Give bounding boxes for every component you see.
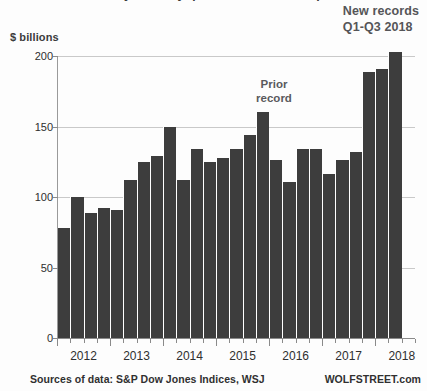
x-axis-labels: 2012201320142015201620172018: [57, 349, 415, 365]
y-tick-label-0: 0: [13, 333, 53, 343]
x-tick-minor: [176, 339, 177, 343]
x-tick-minor: [309, 339, 310, 343]
bar: [349, 152, 362, 338]
x-axis-label-2018: 2018: [379, 349, 425, 363]
bar: [269, 160, 282, 338]
x-tick-major: [375, 339, 376, 346]
x-tick-minor: [84, 339, 85, 343]
bar: [388, 52, 401, 338]
bar: [57, 228, 70, 338]
y-tick-mark-200: [53, 56, 58, 57]
bar: [123, 180, 136, 338]
bar: [203, 162, 216, 338]
x-axis-label-2016: 2016: [273, 349, 319, 363]
x-axis-label-2013: 2013: [114, 349, 160, 363]
x-tick-minor: [137, 339, 138, 343]
bar: [70, 197, 83, 338]
bar: [137, 162, 150, 338]
y-tick-label-150: 150: [13, 122, 53, 132]
x-tick-minor: [97, 339, 98, 343]
y-axis-unit-label: $ billions: [10, 31, 59, 43]
bar: [229, 149, 242, 338]
bar: [190, 149, 203, 338]
x-tick-major: [110, 339, 111, 346]
x-tick-minor: [243, 339, 244, 343]
bar-series: [57, 56, 415, 338]
x-tick-minor: [415, 339, 416, 343]
y-tick-label-50: 50: [13, 263, 53, 273]
bar: [216, 158, 229, 338]
bar: [322, 174, 335, 338]
x-tick-major: [322, 339, 323, 346]
y-tick-mark-150: [53, 127, 58, 128]
y-tick-label-200: 200: [13, 51, 53, 61]
x-tick-minor: [296, 339, 297, 343]
bar: [84, 213, 97, 338]
bar: [163, 127, 176, 339]
x-tick-minor: [229, 339, 230, 343]
x-tick-minor: [349, 339, 350, 343]
brand-watermark: WOLFSTREET.com: [325, 373, 421, 385]
x-tick-minor: [402, 339, 403, 343]
y-tick-label-100: 100: [13, 192, 53, 202]
annotation-new-records-line2: Q1-Q3 2018: [343, 19, 419, 35]
bar: [309, 149, 322, 338]
y-axis-labels: 050100150200: [5, 56, 53, 338]
x-tick-minor: [190, 339, 191, 343]
x-axis-label-2015: 2015: [220, 349, 266, 363]
x-tick-minor: [203, 339, 204, 343]
x-axis-label-2012: 2012: [61, 349, 107, 363]
x-tick-minor: [256, 339, 257, 343]
bar: [97, 208, 110, 338]
bar: [176, 180, 189, 338]
bar: [110, 210, 123, 338]
x-tick-minor: [150, 339, 151, 343]
x-axis-ticks: [57, 339, 415, 347]
y-tick-mark-100: [53, 197, 58, 198]
bar: [282, 182, 295, 339]
annotation-new-records-line1: New records: [343, 3, 419, 19]
x-tick-major: [216, 339, 217, 346]
x-tick-minor: [362, 339, 363, 343]
x-tick-major: [57, 339, 58, 346]
bar: [362, 72, 375, 338]
bar: [256, 112, 269, 338]
x-tick-minor: [70, 339, 71, 343]
bar: [296, 149, 309, 338]
bar: [335, 160, 348, 338]
x-axis-label-2017: 2017: [326, 349, 372, 363]
x-tick-major: [269, 339, 270, 346]
chart-title: Stock buybacks by quarter, S&P 500 compa…: [0, 0, 427, 1]
plot-area: [57, 56, 415, 338]
bar: [243, 135, 256, 338]
y-tick-mark-50: [53, 268, 58, 269]
x-tick-minor: [388, 339, 389, 343]
x-axis-label-2014: 2014: [167, 349, 213, 363]
x-tick-major: [163, 339, 164, 346]
source-note: Sources of data: S&P Dow Jones Indices, …: [30, 373, 265, 385]
x-tick-minor: [335, 339, 336, 343]
bar: [150, 156, 163, 338]
chart-container: Stock buybacks by quarter, S&P 500 compa…: [0, 0, 427, 391]
annotation-new-records: New records Q1-Q3 2018: [343, 3, 419, 35]
x-tick-minor: [123, 339, 124, 343]
bar: [375, 69, 388, 338]
x-tick-minor: [282, 339, 283, 343]
